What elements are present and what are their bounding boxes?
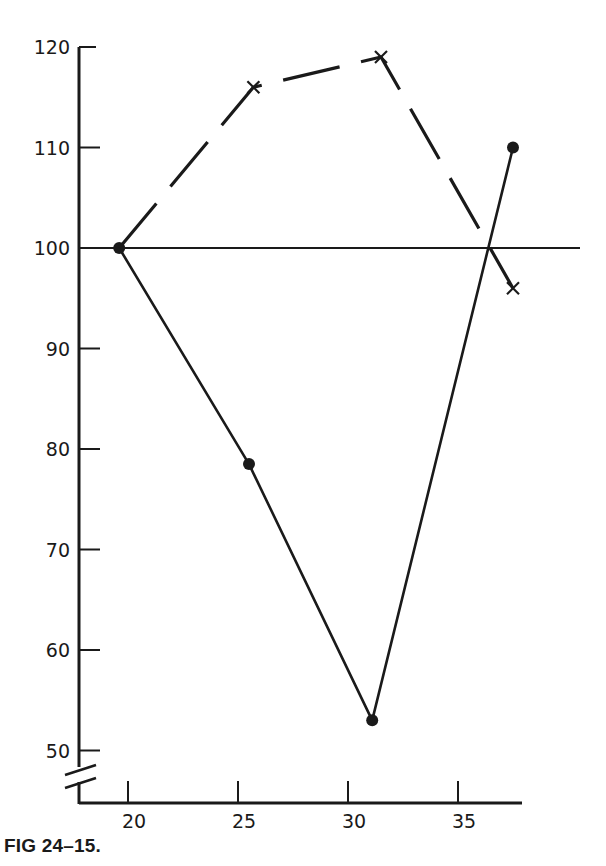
series	[113, 51, 519, 726]
y-tick-label: 80	[46, 438, 70, 460]
data-point-dot	[243, 458, 255, 470]
y-tick-80: 80	[46, 438, 100, 460]
series-dashed-line-crosses	[119, 51, 519, 294]
x-tick-label: 20	[122, 810, 146, 830]
y-tick-100: 100	[34, 237, 100, 259]
x-tick-25: 25	[232, 781, 256, 830]
x-tick-label: 25	[232, 810, 256, 830]
y-tick-label: 110	[34, 137, 70, 159]
y-ticks: 5060708090100110120	[34, 36, 100, 762]
y-tick-label: 60	[46, 639, 70, 661]
data-point-dot	[366, 714, 378, 726]
y-tick-label: 90	[46, 338, 70, 360]
series-solid-line-dots	[113, 142, 519, 727]
y-tick-label: 120	[34, 36, 70, 58]
axes	[65, 47, 580, 804]
y-tick-70: 70	[46, 539, 100, 561]
y-tick-60: 60	[46, 639, 100, 661]
x-tick-20: 20	[122, 781, 146, 830]
dashed-line-crosses-line	[119, 57, 513, 288]
x-tick-label: 35	[452, 810, 476, 830]
x-tick-label: 30	[342, 810, 366, 830]
y-tick-50: 50	[46, 740, 100, 762]
y-tick-label: 100	[34, 237, 70, 259]
y-tick-90: 90	[46, 338, 100, 360]
y-tick-label: 70	[46, 539, 70, 561]
x-ticks: 20253035	[122, 781, 476, 830]
y-tick-label: 50	[46, 740, 70, 762]
x-tick-35: 35	[452, 781, 476, 830]
x-tick-30: 30	[342, 781, 366, 830]
data-point-dot	[507, 142, 519, 154]
y-tick-120: 120	[34, 36, 96, 58]
data-point-cross	[507, 282, 519, 294]
line-chart: 5060708090100110120 20253035	[0, 0, 606, 830]
y-tick-110: 110	[34, 137, 100, 159]
solid-line-dots-line	[119, 148, 513, 721]
figure-caption: FIG 24–15.	[4, 835, 101, 857]
